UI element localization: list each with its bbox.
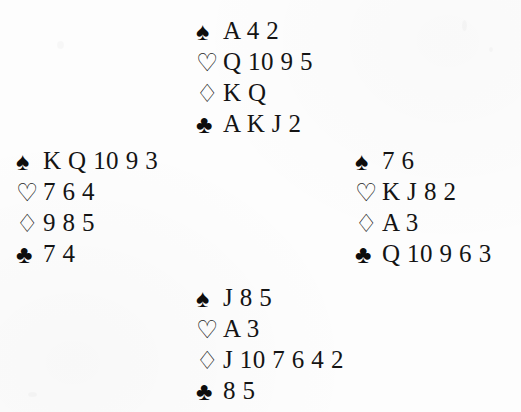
spade-suit-symbol: ♠ xyxy=(355,149,382,174)
hand-west-hearts: 7 6 4 xyxy=(43,179,95,204)
club-suit-symbol: ♣ xyxy=(196,112,223,137)
heart-suit-symbol: ♡ xyxy=(196,317,223,342)
hand-east-clubs-row: ♣ Q 10 9 6 3 xyxy=(355,241,492,272)
hand-west-hearts-row: ♡ 7 6 4 xyxy=(16,179,158,210)
hand-east: ♠ 7 6 ♡ K J 8 2 ♢ A 3 ♣ Q 10 9 6 3 xyxy=(355,148,492,272)
bridge-deal-diagram: ♠ A 4 2 ♡ Q 10 9 5 ♢ K Q ♣ A K J 2 ♠ K Q… xyxy=(0,0,521,412)
club-suit-symbol: ♣ xyxy=(196,379,223,404)
hand-north-diamonds-row: ♢ K Q xyxy=(196,80,313,111)
club-suit-symbol: ♣ xyxy=(355,242,382,267)
scan-speckle xyxy=(57,41,64,49)
hand-east-diamonds: A 3 xyxy=(382,210,419,235)
hand-north-spades: A 4 2 xyxy=(223,18,279,43)
diamond-suit-symbol: ♢ xyxy=(196,81,223,106)
spade-suit-symbol: ♠ xyxy=(196,286,223,311)
spade-suit-symbol: ♠ xyxy=(196,19,223,44)
hand-north-hearts-row: ♡ Q 10 9 5 xyxy=(196,49,313,80)
hand-north-hearts: Q 10 9 5 xyxy=(223,49,313,74)
hand-south-diamonds-row: ♢ J 10 7 6 4 2 xyxy=(196,347,344,378)
hand-south-clubs: 8 5 xyxy=(223,378,255,403)
club-suit-symbol: ♣ xyxy=(16,242,43,267)
hand-south: ♠ J 8 5 ♡ A 3 ♢ J 10 7 6 4 2 ♣ 8 5 xyxy=(196,285,344,409)
hand-east-diamonds-row: ♢ A 3 xyxy=(355,210,492,241)
hand-west-clubs-row: ♣ 7 4 xyxy=(16,241,158,272)
hand-west: ♠ K Q 10 9 3 ♡ 7 6 4 ♢ 9 8 5 ♣ 7 4 xyxy=(16,148,158,272)
diamond-suit-symbol: ♢ xyxy=(16,211,43,236)
hand-north-diamonds: K Q xyxy=(223,80,267,105)
hand-north-clubs: A K J 2 xyxy=(223,111,302,136)
hand-west-spades: K Q 10 9 3 xyxy=(43,148,158,173)
hand-north: ♠ A 4 2 ♡ Q 10 9 5 ♢ K Q ♣ A K J 2 xyxy=(196,18,313,142)
hand-west-spades-row: ♠ K Q 10 9 3 xyxy=(16,148,158,179)
hand-south-clubs-row: ♣ 8 5 xyxy=(196,378,344,409)
hand-east-hearts-row: ♡ K J 8 2 xyxy=(355,179,492,210)
hand-east-hearts: K J 8 2 xyxy=(382,179,456,204)
hand-north-spades-row: ♠ A 4 2 xyxy=(196,18,313,49)
hand-south-hearts-row: ♡ A 3 xyxy=(196,316,344,347)
spade-suit-symbol: ♠ xyxy=(16,149,43,174)
hand-south-hearts: A 3 xyxy=(223,316,260,341)
diamond-suit-symbol: ♢ xyxy=(196,348,223,373)
hand-south-spades: J 8 5 xyxy=(223,285,272,310)
scan-speckle xyxy=(489,47,493,52)
scan-speckle xyxy=(462,20,467,31)
scan-speckle xyxy=(28,392,37,397)
diamond-suit-symbol: ♢ xyxy=(355,211,382,236)
hand-north-clubs-row: ♣ A K J 2 xyxy=(196,111,313,142)
heart-suit-symbol: ♡ xyxy=(196,50,223,75)
heart-suit-symbol: ♡ xyxy=(355,180,382,205)
heart-suit-symbol: ♡ xyxy=(16,180,43,205)
hand-south-diamonds: J 10 7 6 4 2 xyxy=(223,347,344,372)
hand-west-diamonds-row: ♢ 9 8 5 xyxy=(16,210,158,241)
hand-south-spades-row: ♠ J 8 5 xyxy=(196,285,344,316)
hand-west-clubs: 7 4 xyxy=(43,241,75,266)
hand-west-diamonds: 9 8 5 xyxy=(43,210,95,235)
hand-east-spades-row: ♠ 7 6 xyxy=(355,148,492,179)
hand-east-clubs: Q 10 9 6 3 xyxy=(382,241,492,266)
hand-east-spades: 7 6 xyxy=(382,148,414,173)
